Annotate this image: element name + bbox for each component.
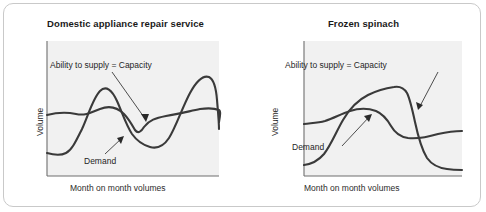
y-axis-label-left: Volume (35, 108, 45, 136)
figure-frame: Domestic appliance repair service Volume… (3, 3, 481, 207)
demand-annotation-left: Demand (84, 156, 116, 166)
capacity-annotation-left: Ability to supply = Capacity (50, 60, 152, 70)
plot-area-left (4, 4, 247, 208)
y-axis-label-right: Volume (270, 108, 280, 136)
x-axis-label-right: Month on month volumes (304, 183, 399, 193)
demand-annotation-right: Demand (292, 142, 324, 152)
x-axis-label-left: Month on month volumes (70, 183, 165, 193)
chart-panel-domestic-appliance-repair-service: Domestic appliance repair service Volume… (4, 4, 247, 208)
chart-panel-frozen-spinach: Frozen spinach Volume Month on month vol… (242, 4, 485, 208)
capacity-annotation-right: Ability to supply = Capacity (285, 60, 387, 70)
plot-area-right (242, 4, 485, 208)
